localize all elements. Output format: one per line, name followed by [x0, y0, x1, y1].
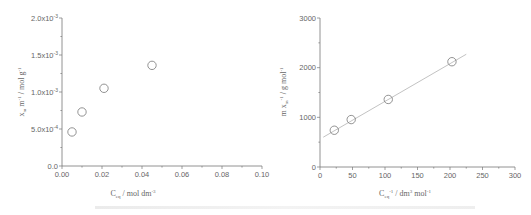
right-x-axis-label: Ceq-1 / dm3 mol-1 — [379, 189, 431, 199]
x-tick-label: 100 — [379, 171, 392, 180]
right-data-points — [330, 58, 456, 135]
right-fit-line — [323, 54, 466, 137]
right-chart: 0501001502002503000100020003000 Ceq-1 / … — [279, 14, 521, 200]
left-chart: 0.000.020.040.060.080.100.05.0x10-41.0x1… — [17, 13, 269, 200]
x-tick-label: 0.10 — [255, 170, 270, 179]
x-tick-label: 200 — [444, 171, 457, 180]
y-tick-label: 0 — [312, 163, 316, 172]
data-point-circle — [68, 128, 76, 136]
x-tick-label: 300 — [509, 171, 522, 180]
y-tick-label: 1.5x10-3 — [31, 50, 58, 60]
right-axes: 0501001502002503000100020003000 — [299, 14, 521, 181]
data-point-circle — [448, 58, 456, 66]
figure-caption-faint — [95, 206, 475, 209]
figure-canvas: 0.000.020.040.060.080.100.05.0x10-41.0x1… — [0, 0, 531, 215]
x-tick-label: 0.04 — [135, 170, 150, 179]
data-point-circle — [330, 126, 338, 134]
x-tick-label: 250 — [476, 171, 489, 180]
left-axes: 0.000.020.040.060.080.100.05.0x10-41.0x1… — [31, 13, 269, 180]
x-tick-label: 0.06 — [175, 170, 190, 179]
y-tick-label: 2.0x10-3 — [31, 13, 58, 23]
x-tick-label: 0.08 — [215, 170, 230, 179]
fit-line — [323, 54, 466, 137]
x-tick-label: 0.02 — [95, 170, 110, 179]
data-point-circle — [100, 84, 108, 92]
x-tick-label: 150 — [411, 171, 424, 180]
data-point-circle — [148, 61, 156, 69]
y-tick-label: 3000 — [299, 14, 316, 23]
y-tick-label: 0.0 — [48, 162, 58, 171]
right-y-axis-label: m xm-1 / g mol-1 — [279, 67, 289, 117]
left-x-axis-label: Ceq / mol dm-3 — [110, 189, 156, 199]
x-tick-label: 0 — [318, 171, 322, 180]
left-y-axis-label: xm m-1 / mol g-1 — [17, 67, 27, 117]
left-data-points — [68, 61, 156, 136]
y-tick-label: 2000 — [299, 63, 316, 72]
y-tick-label: 5.0x10-4 — [31, 124, 58, 134]
data-point-circle — [78, 108, 86, 116]
x-tick-label: 50 — [348, 171, 356, 180]
y-tick-label: 1.0x10-3 — [31, 87, 58, 97]
x-tick-label: 0.00 — [55, 170, 70, 179]
y-tick-label: 1000 — [299, 113, 316, 122]
